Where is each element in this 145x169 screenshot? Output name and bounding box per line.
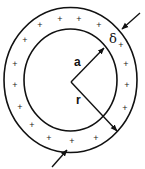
annulus-diagram: a r δ ++++++++++++++++: [0, 0, 145, 169]
charge-plus: +: [123, 59, 128, 69]
delta-arrow-bottom: [52, 150, 67, 167]
charge-plus: +: [96, 20, 101, 30]
charge-plus: +: [57, 14, 62, 24]
charge-plus: +: [17, 102, 22, 112]
charge-plus: +: [46, 133, 51, 143]
charge-plus: +: [29, 120, 34, 130]
label-delta: δ: [109, 31, 117, 46]
charge-plus: +: [12, 59, 17, 69]
diagram-canvas: a r δ ++++++++++++++++: [0, 0, 145, 169]
label-r: r: [76, 93, 81, 107]
charge-plus: +: [22, 35, 27, 45]
charge-plus: +: [69, 136, 74, 146]
charge-plus: +: [12, 80, 17, 90]
charge-plus: +: [37, 20, 42, 30]
charge-plus: +: [124, 80, 129, 90]
label-a: a: [74, 55, 81, 69]
delta-arrow-top: [122, 13, 140, 29]
charge-plus: +: [93, 133, 98, 143]
charge-plus: +: [122, 103, 127, 113]
charge-plus: +: [118, 40, 123, 50]
charge-plus: +: [76, 14, 81, 24]
